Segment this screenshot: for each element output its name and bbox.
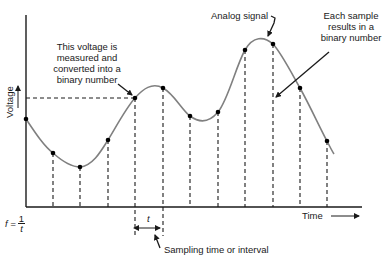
fraction-denominator: t [20, 224, 23, 233]
interval-symbol: t [147, 213, 150, 224]
x-axis-label: Time [302, 210, 323, 221]
analog-signal-label: Analog signal [211, 10, 268, 21]
this-voltage-leader-icon [118, 84, 132, 95]
sampling-interval-label: Sampling time or interval [164, 244, 269, 255]
this-voltage-label: This voltage is measured and converted i… [50, 41, 124, 85]
sampling-interval-leader-icon [155, 235, 160, 248]
y-axis-label: Voltage [4, 86, 15, 118]
analog-signal-leader-icon [268, 16, 275, 36]
frequency-fraction: 1 t [18, 214, 25, 233]
each-sample-label: Each sample results in a binary number [316, 10, 386, 43]
frequency-lhs: f = [5, 218, 16, 229]
frequency-formula: f = 1 t [5, 214, 25, 233]
